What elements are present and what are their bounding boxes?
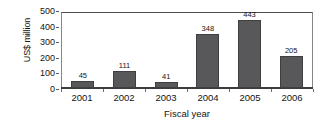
bar-value-2004: 348	[187, 25, 229, 33]
y-tick-mark-400	[56, 27, 59, 28]
bar-slot-2004: 348	[187, 13, 229, 88]
bar-slot-2002: 111	[104, 13, 146, 88]
bar-2001	[71, 81, 94, 88]
bar-value-2002: 111	[104, 62, 146, 70]
bar-2003	[155, 82, 178, 88]
bar-slot-2003: 41	[145, 13, 187, 88]
bar-2002	[113, 71, 136, 88]
y-tick-label-200: 200	[40, 53, 55, 62]
x-tick-label-2005: 2005	[229, 92, 271, 104]
plot-area: 45 111 41 348 443 205	[61, 12, 313, 89]
bar-chart-figure: US$ million 0 100 200 300 400 500 45 111…	[0, 0, 331, 126]
x-tick-label-2003: 2003	[145, 92, 187, 104]
y-tick-mark-100	[56, 73, 59, 74]
y-tick-mark-0	[56, 89, 59, 90]
bar-value-2003: 41	[145, 73, 187, 81]
x-tick-label-2001: 2001	[61, 92, 103, 104]
y-axis-tick-labels: 0 100 200 300 400 500	[24, 8, 58, 89]
y-tick-label-400: 400	[40, 22, 55, 31]
bar-2005	[238, 20, 261, 88]
y-tick-mark-300	[56, 42, 59, 43]
x-tick-label-2002: 2002	[103, 92, 145, 104]
x-axis-title: Fiscal year	[61, 108, 313, 119]
bars-layer: 45 111 41 348 443 205	[62, 13, 312, 88]
bar-slot-2006: 205	[270, 13, 312, 88]
y-tick-label-500: 500	[40, 7, 55, 16]
y-tick-label-300: 300	[40, 38, 55, 47]
x-tick-mark	[313, 89, 314, 92]
bar-value-2005: 443	[229, 11, 271, 19]
bar-slot-2005: 443	[229, 13, 271, 88]
y-tick-label-100: 100	[40, 69, 55, 78]
bar-slot-2001: 45	[62, 13, 104, 88]
x-tick-label-2006: 2006	[271, 92, 313, 104]
y-tick-mark-200	[56, 58, 59, 59]
bar-2006	[280, 56, 303, 88]
y-tick-label-0: 0	[50, 85, 55, 94]
bar-2004	[196, 34, 219, 88]
bar-value-2006: 205	[270, 47, 312, 55]
x-tick-label-2004: 2004	[187, 92, 229, 104]
bar-value-2001: 45	[62, 72, 104, 80]
x-axis-tick-labels: 2001 2002 2003 2004 2005 2006	[61, 92, 313, 104]
y-tick-mark-500	[56, 11, 59, 12]
